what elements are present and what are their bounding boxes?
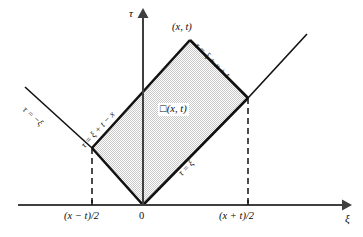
origin-label: 0: [139, 211, 144, 222]
xi-axis-arrowhead: [342, 200, 352, 211]
characteristic-triangle-figure: τ ξ 0 (x − t)/2 (x + t)/2 (x, t) □(x, t)…: [0, 0, 363, 237]
tick-label-left: (x − t)/2: [64, 211, 99, 222]
region-operator-label: □(x, t): [158, 103, 189, 116]
apex-vertex-label: (x, t): [172, 22, 192, 33]
tick-label-right: (x + t)/2: [219, 211, 254, 222]
tau-axis-label: τ: [129, 8, 133, 19]
xi-axis-label: ξ: [345, 213, 350, 224]
region-operator-argument: (x, t): [167, 103, 187, 114]
box-operator-glyph: □: [160, 103, 167, 114]
tau-axis-arrowhead: [138, 8, 149, 18]
diagram-canvas: [0, 0, 363, 237]
line-tau-equals-xi-extension: [248, 34, 307, 98]
